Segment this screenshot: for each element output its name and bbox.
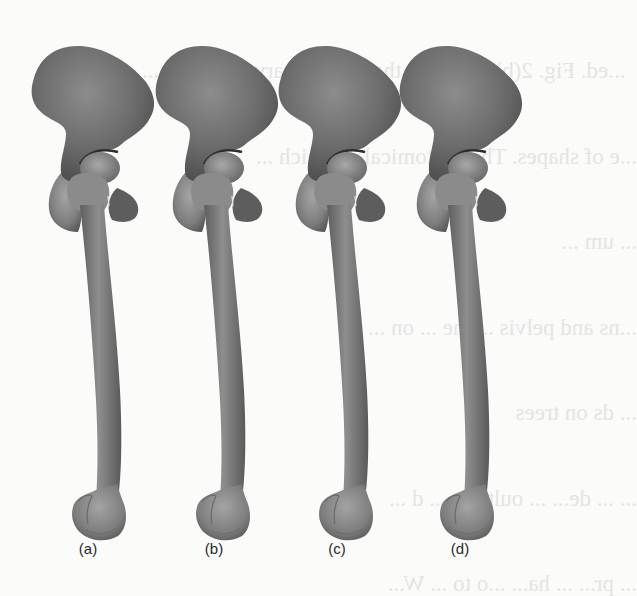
panel-label: (b) xyxy=(194,540,234,557)
panel-label: (c) xyxy=(317,540,357,557)
panel-label: (d) xyxy=(440,540,480,557)
figure-panels: (a) (b) (c) (d) xyxy=(0,0,637,596)
pelvis-femur-model xyxy=(368,0,528,596)
panel-label: (a) xyxy=(68,540,108,557)
panel-d: (d) xyxy=(368,0,518,596)
